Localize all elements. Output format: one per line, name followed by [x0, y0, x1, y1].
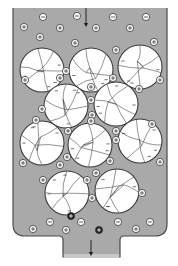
resin-particle-3 [118, 45, 162, 89]
cation-icon [87, 96, 94, 103]
particle-outline [20, 121, 64, 165]
cation-icon [87, 83, 94, 90]
cation-icon [88, 194, 95, 201]
diagram-canvas [0, 0, 178, 266]
cation-icon [71, 39, 78, 46]
resin-particle-9 [45, 171, 89, 215]
anion-icon [77, 218, 84, 225]
cation-icon [112, 127, 119, 134]
cation-icon [112, 136, 119, 143]
cation-icon [156, 76, 163, 83]
cation-icon [64, 127, 71, 134]
anion-icon [114, 218, 121, 225]
cation-icon [132, 225, 139, 232]
anion-icon [73, 12, 80, 19]
cation-icon [29, 225, 36, 232]
cation-icon [148, 120, 155, 127]
cation-icon [36, 33, 43, 40]
resin-particle-6 [20, 121, 64, 165]
cation-icon [112, 46, 119, 53]
cation-icon [56, 74, 63, 81]
cation-icon [63, 153, 70, 160]
cation-icon [56, 24, 63, 31]
cation-icon [62, 226, 69, 233]
resin-particle-4 [44, 84, 88, 128]
resin-particle-10 [95, 169, 139, 213]
cation-icon [126, 24, 133, 31]
cation-icon [20, 23, 27, 30]
cation-icon [19, 159, 26, 166]
anion-icon [142, 13, 149, 20]
anion-icon [109, 13, 116, 20]
cation-icon [56, 161, 63, 168]
cation-icon [150, 38, 157, 45]
cation-icon [62, 67, 69, 74]
ion-exchange-column-diagram [0, 0, 178, 266]
resin-particle-5 [94, 82, 138, 126]
cation-icon [39, 176, 46, 183]
cation-icon [92, 24, 99, 31]
anion-icon [39, 13, 46, 20]
cation-icon [109, 74, 116, 81]
cation-icon [135, 85, 142, 92]
anion-icon [46, 218, 53, 225]
cation-icon [32, 116, 39, 123]
cation-icon [92, 169, 99, 176]
particle-outline [44, 84, 88, 128]
cation-icon [83, 176, 90, 183]
bound-cation-icon [67, 212, 74, 219]
anion-icon [146, 218, 153, 225]
resin-particle-7 [68, 123, 112, 167]
cation-icon [38, 105, 45, 112]
cation-icon [138, 189, 145, 196]
bound-cation-icon [95, 226, 102, 233]
cation-icon [106, 157, 113, 164]
cation-icon [87, 117, 94, 124]
cation-icon [21, 76, 28, 83]
cation-icon [156, 158, 163, 165]
